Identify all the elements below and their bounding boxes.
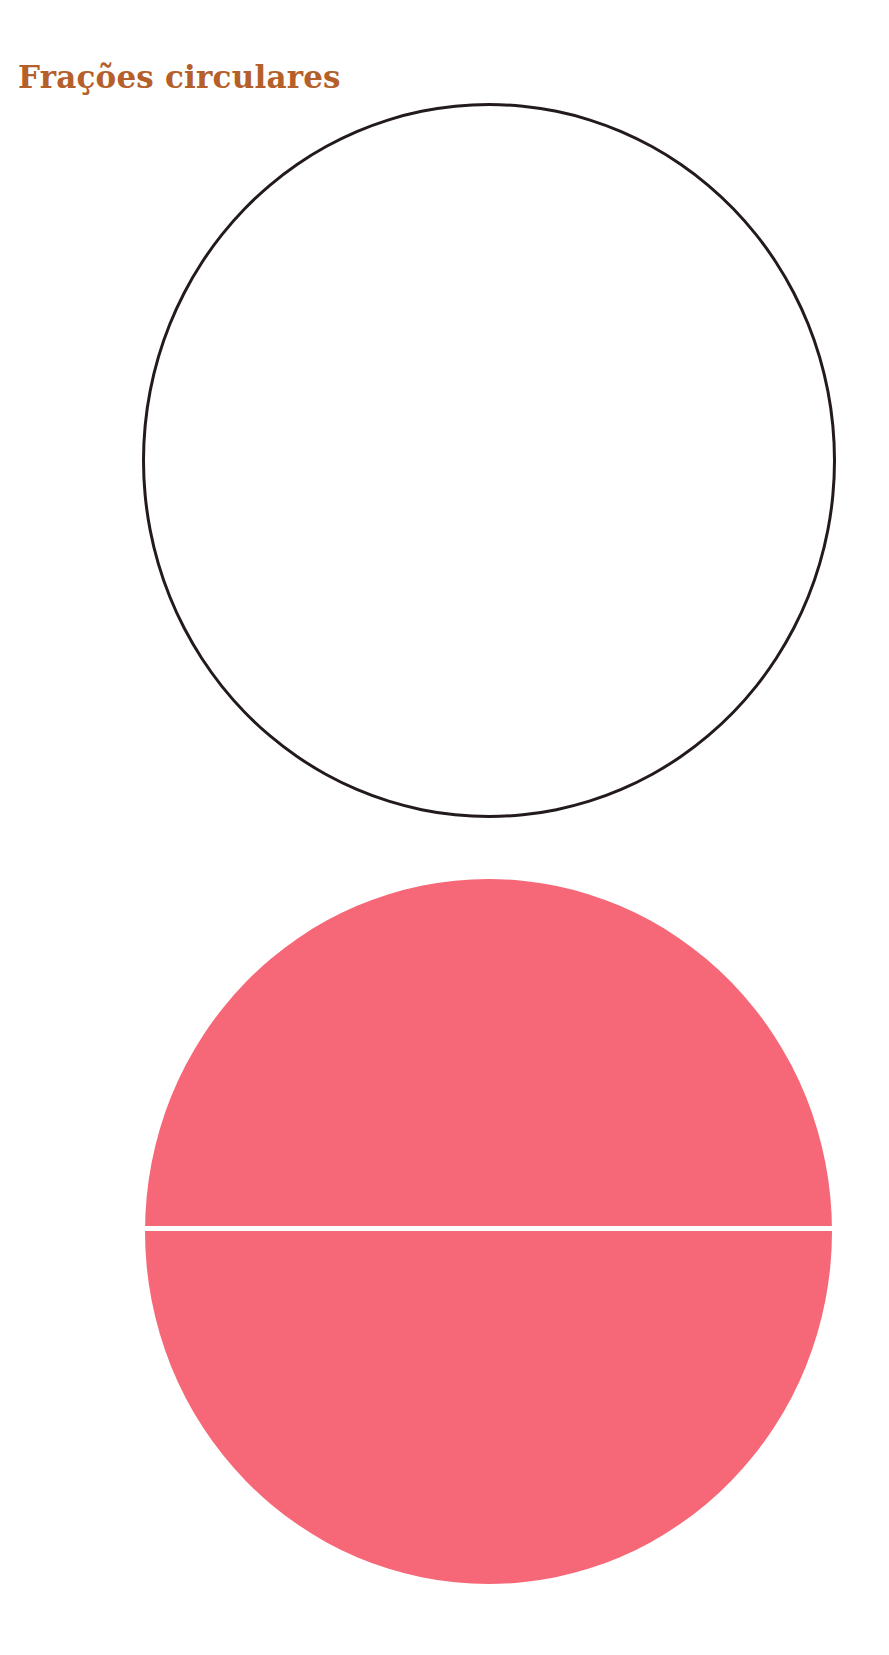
circle-halves [145,879,832,1584]
page-title: Frações circulares [18,62,341,93]
whole-circle-outline [142,103,836,818]
circle-half-bottom [145,1231,832,1584]
circle-half-top [145,879,832,1226]
